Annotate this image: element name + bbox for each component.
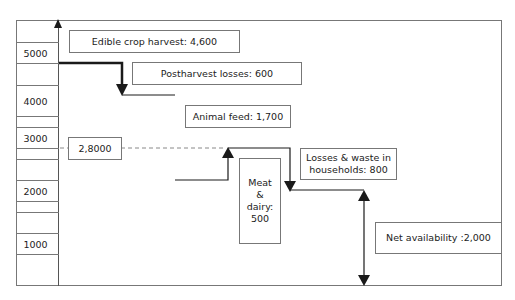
animal-feed-box: Animal feed: 1,700 xyxy=(185,105,291,128)
harvest-level-line xyxy=(59,63,122,88)
y-axis-arrow-icon xyxy=(54,19,62,28)
edible-crop-harvest-box: Edible crop harvest: 4,600 xyxy=(69,30,240,53)
reference-level-box: 2,8000 xyxy=(68,137,122,160)
household-losses-line: households: 800 xyxy=(309,164,387,176)
meat-dairy-line: 500 xyxy=(251,213,269,225)
meat-dairy-box: Meat & dairy: 500 xyxy=(239,158,281,244)
postharvest-down-arrow-icon xyxy=(116,84,128,96)
household-losses-box: Losses & waste in households: 800 xyxy=(300,148,397,180)
meat-dairy-line: dairy: xyxy=(247,201,274,213)
household-losses-line: Losses & waste in xyxy=(306,152,391,164)
net-down-arrow-icon xyxy=(358,275,370,286)
meat-dairy-line: Meat xyxy=(248,177,272,189)
after-feed-line xyxy=(175,154,228,180)
meat-dairy-up-arrow-icon xyxy=(222,147,234,158)
meat-dairy-line: & xyxy=(256,189,263,201)
postharvest-losses-box: Postharvest losses: 600 xyxy=(132,62,302,85)
net-up-arrow-icon xyxy=(358,190,370,201)
net-availability-box: Net availability :2,000 xyxy=(375,222,502,254)
